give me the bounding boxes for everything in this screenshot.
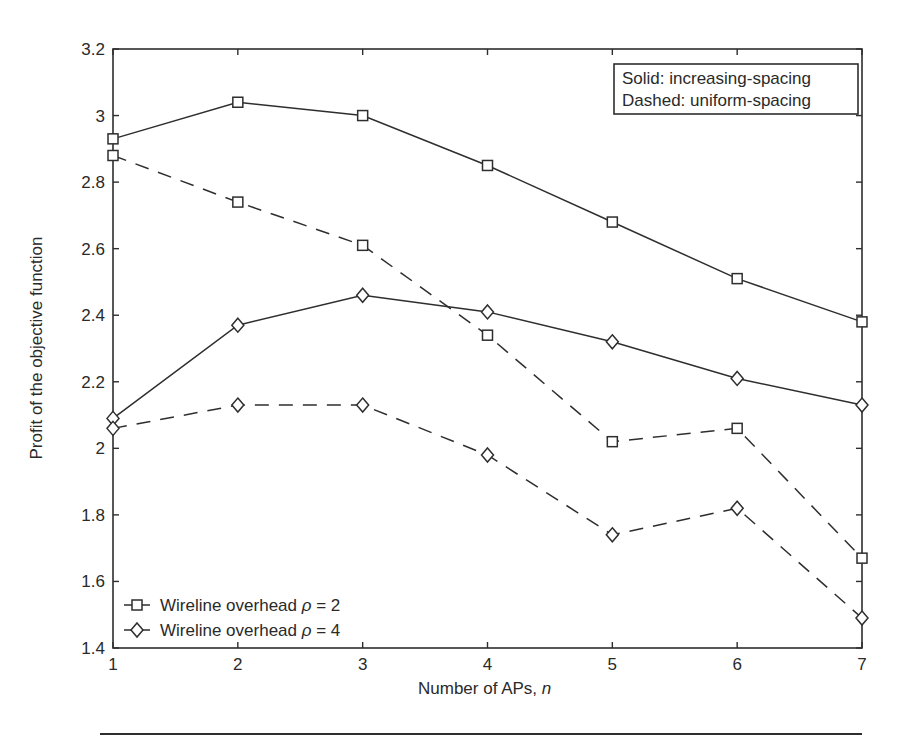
square-marker-icon [132, 600, 142, 610]
y-axis-ticks: 1.41.61.822.22.42.62.833.2 [81, 40, 862, 658]
square-marker-icon [483, 330, 493, 340]
annotation-dashed: Dashed: uniform-spacing [622, 91, 811, 110]
y-tick-label: 3 [96, 107, 105, 126]
series-square-solid [108, 97, 867, 327]
diamond-marker-icon [482, 448, 494, 462]
diamond-marker-icon [232, 398, 244, 412]
diamond-marker-icon [482, 305, 494, 319]
square-marker-icon [607, 217, 617, 227]
legend-entry-rho-4: Wireline overhead ρ = 4 [124, 621, 340, 640]
y-tick-label: 2.4 [81, 306, 105, 325]
series-line [113, 102, 862, 322]
diamond-marker-icon [606, 335, 618, 349]
series-diamond-solid [107, 288, 868, 425]
y-tick-label: 2.2 [81, 373, 105, 392]
square-marker-icon [233, 97, 243, 107]
x-tick-label: 1 [108, 655, 117, 674]
diamond-marker-icon [232, 318, 244, 332]
square-marker-icon [732, 274, 742, 284]
x-tick-label: 3 [358, 655, 367, 674]
square-marker-icon [857, 317, 867, 327]
square-marker-icon [108, 150, 118, 160]
x-tick-label: 7 [857, 655, 866, 674]
diamond-marker-icon [856, 611, 868, 625]
legend-entry-rho-2: Wireline overhead ρ = 2 [124, 596, 340, 615]
y-tick-label: 1.6 [81, 572, 105, 591]
plot-frame [113, 49, 862, 648]
legend: Wireline overhead ρ = 2 Wireline overhea… [124, 596, 340, 640]
diamond-marker-icon [131, 623, 143, 637]
series-layer [107, 97, 868, 625]
square-marker-icon [108, 134, 118, 144]
square-marker-icon [732, 423, 742, 433]
square-marker-icon [607, 437, 617, 447]
svg-text:Wireline overhead ρ = 4: Wireline overhead ρ = 4 [160, 621, 340, 640]
y-tick-label: 2 [96, 439, 105, 458]
x-tick-label: 4 [483, 655, 492, 674]
y-tick-label: 3.2 [81, 40, 105, 59]
x-tick-label: 2 [233, 655, 242, 674]
series-line [113, 405, 862, 618]
square-marker-icon [233, 197, 243, 207]
y-tick-label: 1.8 [81, 506, 105, 525]
y-axis-label: Profit of the objective function [27, 236, 46, 459]
square-marker-icon [483, 160, 493, 170]
square-marker-icon [358, 111, 368, 121]
diamond-marker-icon [357, 398, 369, 412]
line-style-annotation: Solid: increasing-spacing Dashed: unifor… [614, 64, 858, 114]
diamond-marker-icon [856, 398, 868, 412]
series-line [113, 155, 862, 558]
square-marker-icon [857, 553, 867, 563]
series-square-dashed [108, 150, 867, 563]
diamond-marker-icon [357, 288, 369, 302]
y-tick-label: 2.6 [81, 240, 105, 259]
line-chart: 1.41.61.822.22.42.62.833.2 1234567 Solid… [0, 0, 908, 749]
x-tick-label: 5 [608, 655, 617, 674]
square-marker-icon [358, 240, 368, 250]
series-diamond-dashed [107, 398, 868, 625]
legend-label-rho-2: Wireline overhead [160, 596, 302, 615]
svg-text:Wireline overhead ρ = 2: Wireline overhead ρ = 2 [160, 596, 340, 615]
legend-label-rho-4: Wireline overhead [160, 621, 302, 640]
axes-box [113, 49, 862, 648]
y-tick-label: 1.4 [81, 639, 105, 658]
y-tick-label: 2.8 [81, 173, 105, 192]
x-axis-ticks: 1234567 [108, 49, 866, 674]
diamond-marker-icon [606, 528, 618, 542]
diamond-marker-icon [107, 421, 119, 435]
x-tick-label: 6 [732, 655, 741, 674]
annotation-solid: Solid: increasing-spacing [622, 69, 811, 88]
x-axis-label: Number of APs, n [418, 679, 551, 698]
diamond-marker-icon [731, 501, 743, 515]
diamond-marker-icon [731, 371, 743, 385]
